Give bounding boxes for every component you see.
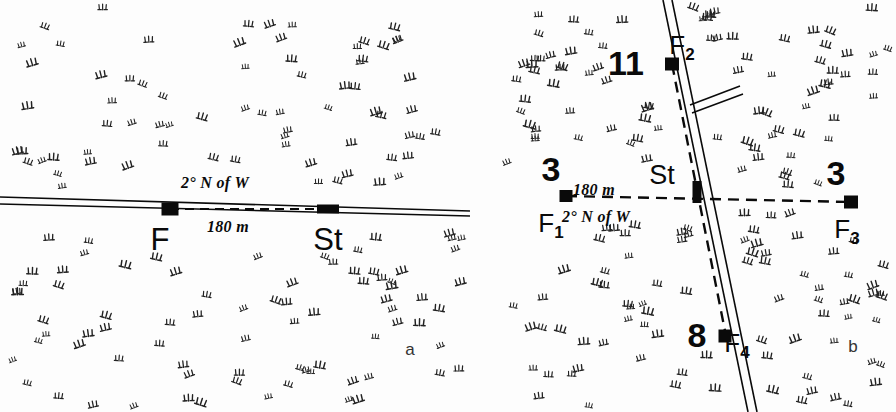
marker-St[interactable] [317,205,339,214]
marsh-tuft-icon [232,376,243,385]
marsh-tuft-icon [84,149,92,154]
marsh-tuft-icon [737,165,747,172]
marsh-tuft-icon [347,376,359,386]
marsh-tuft-icon [281,141,290,147]
marsh-tuft-icon [341,169,353,178]
marsh-tuft-icon [165,319,175,326]
marsh-tuft-icon [868,69,877,75]
marsh-tuft-icon [284,380,294,388]
marsh-tuft-icon [394,172,403,179]
marsh-tuft-icon [516,107,526,115]
marsh-tuft-icon [243,20,254,27]
marsh-tuft-icon [454,365,464,371]
marsh-tuft-icon [783,180,794,187]
subscript: 4 [740,343,749,362]
marsh-tuft-icon [825,136,833,141]
panel-a-graphics [0,0,470,412]
marsh-tuft-icon [623,300,634,307]
marsh-tuft-icon [677,236,687,243]
marsh-tuft-icon [387,154,398,161]
marsh-tuft-icon [688,2,700,12]
marsh-tuft-icon [125,75,134,81]
site-label-F2: F2 [669,32,694,63]
marsh-tuft-icon [258,109,267,116]
marsh-tuft-icon [25,57,38,67]
marsh-tuft-icon [883,44,892,51]
marsh-tuft-icon [806,85,819,96]
marsh-tuft-icon [807,25,819,33]
marsh-tuft-icon [727,32,738,39]
marsh-tuft-icon [450,244,460,252]
marsh-tuft-icon [404,131,415,139]
marsh-tuft-icon [351,394,364,404]
marsh-tuft-icon [314,179,322,184]
marsh-tuft-icon [841,48,853,56]
marker-F1[interactable] [560,190,573,202]
marsh-tuft-icon [592,62,604,71]
marsh-tuft-icon [40,22,50,30]
count-label-F2: 11 [608,46,644,80]
marsh-tuft-icon [825,25,837,35]
marsh-tuft-icon [349,267,361,275]
marsh-tuft-icon [376,110,387,118]
marsh-tuft-icon [389,22,401,31]
marsh-tuft-icon [138,79,148,87]
marsh-tuft-icon [867,357,876,364]
marsh-tuft-icon [545,51,556,59]
marsh-tuft-icon [584,29,593,36]
marsh-tuft-icon [791,231,803,239]
marsh-tuft-icon [416,293,427,300]
marsh-tuft-icon [544,371,554,377]
marsh-tuft-icon [406,105,418,114]
marsh-tuft-icon [638,300,647,307]
marsh-tuft-icon [796,396,807,404]
marsh-tuft-icon [640,321,648,326]
marsh-tuft-icon [830,392,842,401]
marsh-tuft-icon [196,112,208,122]
marsh-tuft-icon [531,136,539,141]
marsh-tuft-icon [178,360,189,368]
marsh-tuft-icon [709,384,721,392]
marsh-tuft-icon [27,267,38,274]
marsh-tuft-icon [839,298,849,305]
marsh-tuft-icon [333,176,344,184]
marsh-tuft-icon [779,34,790,42]
marsh-tuft-icon [58,183,67,189]
marsh-tuft-icon [358,277,369,284]
marsh-tuft-icon [99,322,111,331]
marsh-tuft-icon [108,98,117,104]
marsh-tuft-icon [202,291,212,298]
marsh-tuft-icon [114,355,124,361]
marsh-tuft-icon [547,78,560,87]
marsh-tuft-icon [301,366,310,373]
marsh-tuft-icon [297,71,307,78]
marsh-tuft-icon [803,372,813,380]
marsh-tuft-icon [569,16,579,23]
marsh-tuft-icon [529,365,538,370]
marsh-tuft-icon [844,313,852,319]
count-label-F4: 8 [688,318,707,352]
marsh-tuft-icon [767,132,776,139]
marsh-tuft-icon [760,107,773,117]
marsh-tuft-icon [814,179,823,186]
marker-St-b[interactable] [693,181,702,203]
marsh-tuft-icon [591,277,604,286]
marker-F[interactable] [162,203,179,216]
marker-F3[interactable] [844,196,858,209]
marsh-tuft-icon [72,339,85,349]
marsh-tuft-icon [241,64,249,69]
marsh-tuft-icon [784,208,795,217]
marsh-tuft-icon [533,392,544,399]
marsh-tuft-icon [531,125,541,132]
marsh-tuft-icon [683,224,693,232]
site-label-St: St [313,224,342,255]
marsh-tuft-icon [753,106,765,114]
marsh-tuft-icon [806,386,818,395]
marsh-tuft-icon [759,256,771,265]
panel-a: 2° N of W 180 m F St a [0,0,470,412]
marsh-tuft-icon [814,284,823,291]
marsh-tuft-icon [557,264,570,274]
marsh-tuft-icon [48,153,60,161]
marsh-tuft-icon [192,310,203,317]
marsh-tuft-icon [183,369,195,378]
